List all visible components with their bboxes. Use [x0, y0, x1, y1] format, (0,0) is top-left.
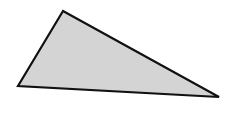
diagram-canvas [0, 0, 241, 115]
triangle-figure [0, 0, 241, 115]
triangle-shape [18, 11, 219, 97]
